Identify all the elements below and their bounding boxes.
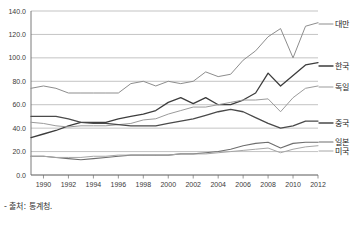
y-tick-label: 40.0 <box>12 125 26 132</box>
x-tick-label: 1992 <box>61 181 77 188</box>
y-tick-label: 20.0 <box>12 148 26 155</box>
y-tick-label: 0.0 <box>16 172 26 179</box>
legend-label-미국: 미국 <box>335 147 349 156</box>
line-chart: 140.0120.0100.080.060.040.020.00.0 19901… <box>0 0 363 190</box>
legend-label-독일: 독일 <box>335 83 349 92</box>
x-tick-label: 2012 <box>310 181 326 188</box>
data-series-lines <box>31 23 318 160</box>
legend-label-대만: 대만 <box>335 20 350 29</box>
y-tick-label: 60.0 <box>12 101 26 108</box>
x-tick-label: 1996 <box>111 181 127 188</box>
y-tick-label: 100.0 <box>8 54 26 61</box>
chart-legend: 대만한국독일중국일본미국 <box>319 20 350 156</box>
source-note: - 출처: 통계청. <box>4 200 52 211</box>
x-tick-label: 2000 <box>160 181 176 188</box>
y-tick-label: 120.0 <box>8 31 26 38</box>
x-tick-label: 2008 <box>260 181 276 188</box>
x-tick-label: 1994 <box>86 181 102 188</box>
chart-figure: 140.0120.0100.080.060.040.020.00.0 19901… <box>0 0 363 227</box>
legend-label-한국: 한국 <box>335 62 349 71</box>
x-tick-label: 1998 <box>136 181 152 188</box>
y-axis-tick-labels: 140.0120.0100.080.060.040.020.00.0 <box>8 8 26 179</box>
x-tick-label: 2006 <box>235 181 251 188</box>
y-tick-label: 140.0 <box>8 8 26 15</box>
x-axis-tick-labels: 1990199219941996199820002002200420062008… <box>36 175 326 188</box>
x-tick-label: 1990 <box>36 181 52 188</box>
y-tick-label: 80.0 <box>12 78 26 85</box>
chart-plot-area: 140.0120.0100.080.060.040.020.00.0 19901… <box>0 0 363 190</box>
x-tick-label: 2004 <box>210 181 226 188</box>
legend-label-중국: 중국 <box>335 119 349 128</box>
legend-label-일본: 일본 <box>335 138 349 147</box>
x-tick-label: 2002 <box>185 181 201 188</box>
x-tick-label: 2010 <box>285 181 301 188</box>
